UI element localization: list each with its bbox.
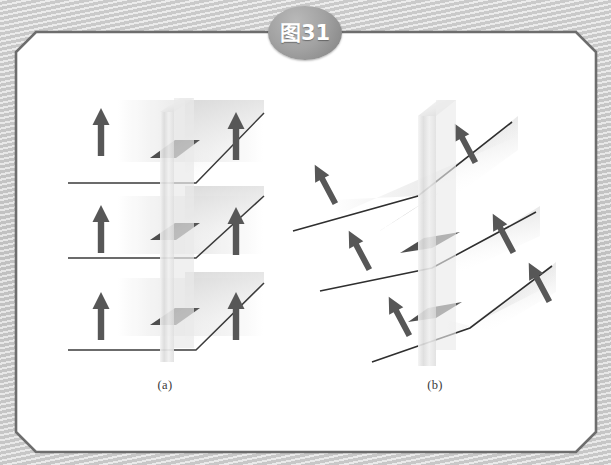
figure-panel bbox=[14, 30, 598, 454]
panel-outline bbox=[16, 32, 596, 452]
figure-number-badge: 图31 bbox=[268, 6, 342, 60]
caption-a: (a) bbox=[140, 378, 190, 393]
figure-page: 图31 bbox=[0, 0, 611, 465]
caption-b: (b) bbox=[410, 378, 460, 393]
figure-number-label: 图31 bbox=[280, 23, 330, 44]
panel-frame-svg bbox=[14, 30, 598, 454]
